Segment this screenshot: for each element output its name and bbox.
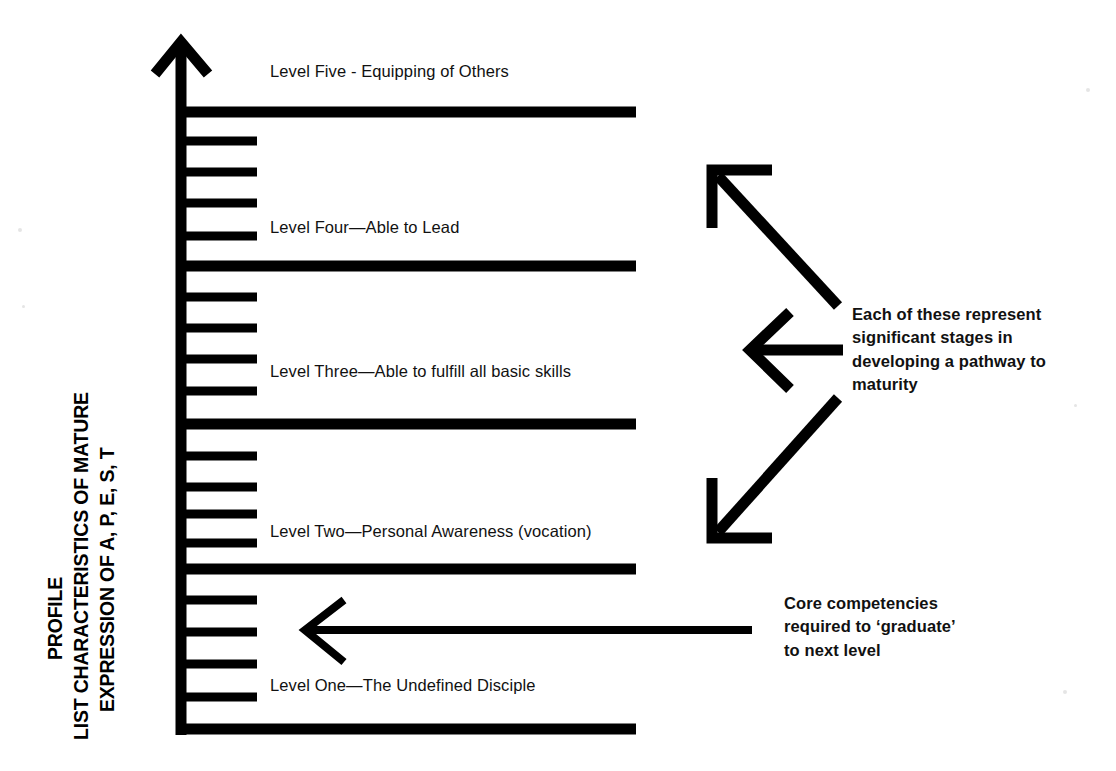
level-label-two: Level Two—Personal Awareness (vocation) xyxy=(270,522,592,541)
arrow-left-long xyxy=(305,600,752,662)
scan-speck xyxy=(18,228,22,232)
note-core-competencies: Core competencies required to ‘graduate’… xyxy=(784,592,1034,662)
arrow-up-left xyxy=(712,170,838,306)
scan-speck xyxy=(1063,690,1067,694)
scan-speck xyxy=(1086,88,1090,92)
level-label-one: Level One—The Undefined Disciple xyxy=(270,676,536,695)
diagram-canvas: PROFILE LIST CHARACTERISTICS OF MATURE E… xyxy=(0,0,1116,771)
arrow-down-left xyxy=(712,398,838,538)
note-significant-stages: Each of these represent significant stag… xyxy=(852,303,1102,397)
arrow-left xyxy=(750,312,843,389)
level-label-five: Level Five - Equipping of Others xyxy=(270,62,509,81)
level-label-four: Level Four—Able to Lead xyxy=(270,218,459,237)
scan-speck xyxy=(22,305,25,308)
scan-speck xyxy=(1074,404,1077,407)
level-label-three: Level Three—Able to fulfill all basic sk… xyxy=(270,362,571,381)
